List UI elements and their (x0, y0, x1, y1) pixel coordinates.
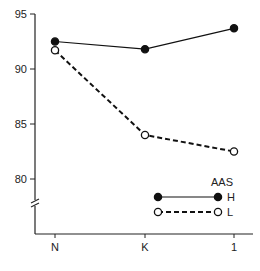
x-tick-label: K (141, 241, 149, 253)
open-circle-marker-icon (51, 47, 58, 54)
series-h (51, 25, 237, 53)
legend-label: H (227, 191, 235, 203)
y-ticks: 80859095 (15, 8, 35, 185)
axis-break-icon (31, 199, 39, 207)
filled-circle-marker-icon (154, 193, 161, 200)
open-circle-marker-icon (230, 148, 237, 155)
legend-entry-l: L (154, 206, 233, 218)
line-chart: 80859095 NK1 AAS HL (0, 0, 260, 271)
y-tick-label: 80 (15, 173, 27, 185)
y-tick-label: 90 (15, 63, 27, 75)
legend-entry-h: H (154, 191, 235, 203)
x-tick-label: N (51, 241, 59, 253)
x-tick-label: 1 (231, 241, 237, 253)
open-circle-marker-icon (141, 131, 148, 138)
legend-label: L (227, 206, 233, 218)
legend: AAS HL (154, 176, 235, 218)
open-circle-marker-icon (214, 208, 221, 215)
open-circle-marker-icon (154, 208, 161, 215)
series-group (51, 25, 237, 155)
filled-circle-marker-icon (51, 38, 58, 45)
series-l (51, 47, 237, 155)
x-ticks: NK1 (51, 234, 237, 253)
y-tick-label: 85 (15, 118, 27, 130)
filled-circle-marker-icon (141, 46, 148, 53)
y-tick-label: 95 (15, 8, 27, 20)
filled-circle-marker-icon (214, 193, 221, 200)
legend-title: AAS (211, 176, 233, 188)
filled-circle-marker-icon (230, 25, 237, 32)
